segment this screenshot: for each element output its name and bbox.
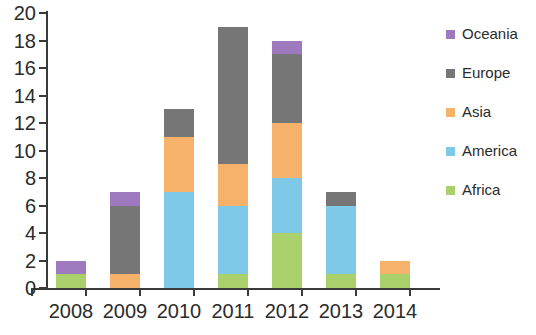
y-axis-tick — [39, 287, 48, 289]
y-axis-tick-label: 2 — [0, 251, 36, 271]
bar-segment-oceania[interactable] — [56, 261, 86, 275]
legend-swatch-icon — [446, 186, 455, 195]
bar-2014[interactable] — [380, 261, 410, 289]
x-axis-tick — [139, 288, 141, 296]
y-axis-tick-label: 8 — [0, 168, 36, 188]
y-axis-tick — [39, 122, 48, 124]
bar-2008[interactable] — [56, 261, 86, 289]
legend-label: Oceania — [462, 26, 518, 42]
bar-segment-asia[interactable] — [164, 137, 194, 192]
legend-label: Europe — [462, 65, 510, 81]
bar-segment-africa[interactable] — [272, 233, 302, 288]
bar-segment-america[interactable] — [272, 178, 302, 233]
legend-swatch-icon — [446, 69, 455, 78]
x-axis-tick — [31, 288, 33, 296]
legend-swatch-icon — [446, 147, 455, 156]
y-axis-tick-label: 20 — [0, 3, 36, 23]
y-axis-tick-label-text: 2 — [2, 251, 36, 271]
x-axis-label-2010: 2010 — [149, 300, 209, 322]
x-axis-tick — [193, 288, 195, 296]
x-axis-label-2011: 2011 — [203, 300, 263, 322]
bar-segment-america[interactable] — [326, 206, 356, 275]
y-axis-tick-label: 18 — [0, 31, 36, 51]
bar-2009[interactable] — [110, 192, 140, 288]
bar-segment-africa[interactable] — [56, 274, 86, 288]
legend-item-oceania[interactable]: Oceania — [446, 26, 536, 42]
x-axis-label-2009: 2009 — [95, 300, 155, 322]
y-axis-tick — [39, 205, 48, 207]
bar-2013[interactable] — [326, 192, 356, 288]
y-axis-tick-label: 10 — [0, 141, 36, 161]
bar-segment-europe[interactable] — [326, 192, 356, 206]
x-axis-tick — [85, 288, 87, 296]
bar-2010[interactable] — [164, 109, 194, 288]
bar-segment-europe[interactable] — [272, 54, 302, 123]
y-axis-tick-label: 16 — [0, 58, 36, 78]
y-axis-tick-label: 14 — [0, 86, 36, 106]
y-axis-tick-label-text: 6 — [2, 196, 36, 216]
x-axis-label-2012: 2012 — [257, 300, 317, 322]
x-axis-label-2013: 2013 — [311, 300, 371, 322]
y-axis-tick-label-text: 18 — [2, 31, 36, 51]
bar-segment-europe[interactable] — [218, 27, 248, 165]
legend-item-europe[interactable]: Europe — [446, 65, 536, 81]
bar-segment-america[interactable] — [164, 192, 194, 288]
bar-segment-oceania[interactable] — [272, 41, 302, 55]
bar-segment-africa[interactable] — [326, 274, 356, 288]
y-axis-tick — [39, 95, 48, 97]
bar-segment-asia[interactable] — [218, 164, 248, 205]
legend-label: Asia — [462, 104, 491, 120]
chart-legend: OceaniaEuropeAsiaAmericaAfrica — [446, 26, 536, 221]
bar-segment-africa[interactable] — [380, 274, 410, 288]
x-axis-tick — [409, 288, 411, 296]
x-axis-tick — [355, 288, 357, 296]
legend-swatch-icon — [446, 108, 455, 117]
bar-2011[interactable] — [218, 27, 248, 288]
y-axis-tick-label-text: 20 — [2, 3, 36, 23]
x-axis-label-2008: 2008 — [41, 300, 101, 322]
legend-label: Africa — [462, 182, 500, 198]
y-axis-tick — [39, 12, 48, 14]
bar-segment-africa[interactable] — [218, 274, 248, 288]
y-axis-tick-label-text: 4 — [2, 223, 36, 243]
bar-segment-asia[interactable] — [272, 123, 302, 178]
y-axis-tick — [39, 67, 48, 69]
bar-segment-asia[interactable] — [110, 274, 140, 288]
bar-segment-oceania[interactable] — [110, 192, 140, 206]
x-axis-tick — [247, 288, 249, 296]
bar-2012[interactable] — [272, 41, 302, 289]
bar-segment-europe[interactable] — [164, 109, 194, 137]
y-axis-tick — [39, 40, 48, 42]
x-axis-line — [31, 288, 440, 290]
y-axis-tick-label: 4 — [0, 223, 36, 243]
stacked-bar-chart: 02468101214161820 2008200920102011201220… — [0, 0, 536, 335]
y-axis-tick — [39, 150, 48, 152]
y-axis-tick-label-text: 10 — [2, 141, 36, 161]
x-axis-tick — [301, 288, 303, 296]
legend-swatch-icon — [446, 30, 455, 39]
y-axis-tick-label: 6 — [0, 196, 36, 216]
legend-label: America — [462, 143, 517, 159]
y-axis-tick-label-text: 14 — [2, 86, 36, 106]
y-axis-tick — [39, 260, 48, 262]
bar-segment-europe[interactable] — [110, 206, 140, 275]
legend-item-africa[interactable]: Africa — [446, 182, 536, 198]
y-axis-tick-label: 12 — [0, 113, 36, 133]
y-axis-tick — [39, 232, 48, 234]
x-axis-label-2014: 2014 — [365, 300, 425, 322]
legend-item-america[interactable]: America — [446, 143, 536, 159]
y-axis-tick-label-text: 16 — [2, 58, 36, 78]
legend-item-asia[interactable]: Asia — [446, 104, 536, 120]
y-axis-tick-label-text: 8 — [2, 168, 36, 188]
bar-segment-asia[interactable] — [380, 261, 410, 275]
y-axis-tick-label-text: 12 — [2, 113, 36, 133]
bar-segment-america[interactable] — [218, 206, 248, 275]
y-axis-tick — [39, 177, 48, 179]
